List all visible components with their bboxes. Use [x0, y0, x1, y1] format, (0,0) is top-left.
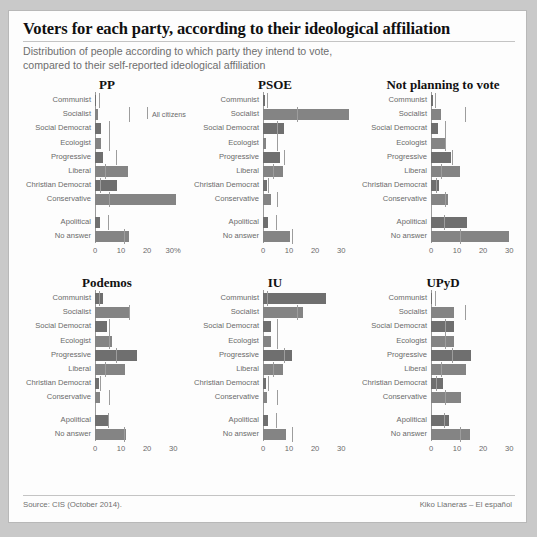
- category-label: Social Democrat: [203, 320, 259, 332]
- all-citizens-tick: [124, 229, 125, 244]
- bar-row: Socialist: [95, 307, 181, 318]
- all-citizens-tick: [108, 215, 109, 230]
- bar-row: Christian Democrat: [263, 378, 349, 389]
- bar: [263, 321, 271, 332]
- bar: [263, 180, 267, 191]
- all-citizens-tick: [267, 291, 268, 306]
- category-label: Social Democrat: [35, 122, 91, 134]
- category-label: Apolitical: [61, 216, 91, 228]
- x-axis-tick-label: 20: [479, 444, 487, 453]
- x-axis-tick-label: 10: [117, 444, 125, 453]
- all-citizens-tick: [435, 291, 436, 306]
- bar: [431, 307, 454, 318]
- bar-row: Liberal: [431, 166, 517, 177]
- bar-row: Ecologist: [431, 336, 517, 347]
- bar-row: Ecologist: [431, 138, 517, 149]
- category-label: Socialist: [63, 108, 91, 120]
- all-citizens-tick: [444, 413, 445, 428]
- bar-row: No answer: [431, 231, 517, 242]
- x-axis-tick-label: 30: [505, 246, 513, 255]
- panel-title: PP: [23, 77, 191, 93]
- all-citizens-tick: [116, 150, 117, 165]
- all-citizens-tick: [100, 178, 101, 193]
- subtitle-line-1: Distribution of people according to whic…: [23, 44, 503, 58]
- bar-row: Progressive: [431, 350, 517, 361]
- x-axis-tick-label: 20: [311, 246, 319, 255]
- category-label: Progressive: [51, 151, 91, 163]
- bar: [95, 307, 130, 318]
- category-label: Liberal: [68, 165, 91, 177]
- bar-row: Socialist: [263, 307, 349, 318]
- category-label: Apolitical: [397, 414, 427, 426]
- all-citizens-tick: [297, 107, 298, 122]
- category-label: Ecologist: [396, 137, 427, 149]
- category-label: Progressive: [387, 349, 427, 361]
- x-axis-tick-label: 0: [93, 444, 97, 453]
- all-citizens-tick: [436, 178, 437, 193]
- bar-row: Progressive: [263, 152, 349, 163]
- bar: [263, 293, 326, 304]
- bar-row: Liberal: [95, 166, 181, 177]
- all-citizens-tick: [124, 427, 125, 442]
- all-citizens-tick: [292, 427, 293, 442]
- bar-row: Conservative: [431, 392, 517, 403]
- bar-row: Liberal: [95, 364, 181, 375]
- bar-row: Ecologist: [263, 336, 349, 347]
- bar: [431, 415, 449, 426]
- all-citizens-tick: [277, 334, 278, 349]
- all-citizens-tick: [273, 164, 274, 179]
- all-citizens-tick: [109, 319, 110, 334]
- all-citizens-tick: [277, 192, 278, 207]
- all-citizens-tick: [441, 164, 442, 179]
- bar-row: Conservative: [263, 392, 349, 403]
- all-citizens-tick: [445, 192, 446, 207]
- x-axis-tick-label: 30: [169, 444, 177, 453]
- x-axis-tick-label: 0: [429, 246, 433, 255]
- bar: [95, 123, 101, 134]
- bar-row: Christian Democrat: [263, 180, 349, 191]
- bar-row: No answer: [95, 429, 181, 440]
- bar-row: Liberal: [263, 364, 349, 375]
- bar: [263, 415, 268, 426]
- all-citizens-tick: [277, 319, 278, 334]
- all-citizens-tick: [445, 136, 446, 151]
- x-axis-tick-label: 0: [261, 246, 265, 255]
- category-label: Communist: [53, 94, 91, 106]
- bar: [95, 194, 176, 205]
- category-label: No answer: [391, 428, 427, 440]
- bar: [263, 231, 290, 242]
- bar: [95, 321, 107, 332]
- all-citizens-tick: [277, 121, 278, 136]
- category-label: Ecologist: [228, 137, 259, 149]
- all-citizens-tick: [445, 390, 446, 405]
- bar: [263, 378, 266, 389]
- all-citizens-tick: [297, 305, 298, 320]
- bar-row: Social Democrat: [263, 123, 349, 134]
- category-label: Christian Democrat: [194, 377, 259, 389]
- all-citizens-tick: [465, 305, 466, 320]
- category-label: Socialist: [231, 306, 259, 318]
- bar: [263, 217, 268, 228]
- x-axis-tick-label: 10: [117, 246, 125, 255]
- all-citizens-tick: [105, 362, 106, 377]
- category-label: Liberal: [236, 165, 259, 177]
- category-label: Liberal: [404, 363, 427, 375]
- bar-row: Apolitical: [431, 415, 517, 426]
- category-label: Ecologist: [228, 335, 259, 347]
- x-axis-tick-label: 10: [453, 246, 461, 255]
- panel-pp: PPCommunistSocialistSocial DemocratEcolo…: [23, 77, 191, 273]
- category-label: Social Democrat: [371, 320, 427, 332]
- subtitle-line-2: compared to their self-reported ideologi…: [23, 58, 503, 72]
- bar-row: Liberal: [431, 364, 517, 375]
- bar-row: No answer: [263, 231, 349, 242]
- bar: [431, 429, 470, 440]
- all-citizens-tick: [444, 215, 445, 230]
- bar-row: Socialist: [431, 307, 517, 318]
- bar: [431, 293, 432, 304]
- category-label: Apolitical: [229, 216, 259, 228]
- panel-title: IU: [191, 275, 359, 291]
- category-label: Social Democrat: [371, 122, 427, 134]
- bar-row: Progressive: [95, 350, 181, 361]
- legend-label: All citizens: [152, 110, 186, 119]
- bar: [431, 109, 441, 120]
